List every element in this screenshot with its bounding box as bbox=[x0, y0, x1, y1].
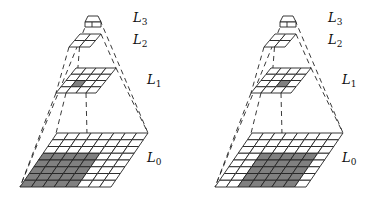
label-L3-right: L3 bbox=[327, 10, 343, 27]
grid-L2 bbox=[264, 34, 296, 47]
label-L2-left: L2 bbox=[132, 32, 147, 49]
grid-L2 bbox=[69, 34, 101, 47]
L3-top-face bbox=[280, 16, 296, 22]
projection-line bbox=[116, 68, 148, 133]
label-L0-right: L0 bbox=[341, 150, 357, 167]
grid-L3 bbox=[85, 16, 101, 27]
label-L2-right: L2 bbox=[327, 32, 342, 49]
L3-front-face bbox=[85, 22, 101, 27]
pyramid-panel-left bbox=[20, 16, 148, 187]
pyramid-panel-right bbox=[215, 16, 343, 187]
label-L0-left: L0 bbox=[146, 150, 162, 167]
grid-L1 bbox=[56, 68, 116, 93]
grid-L1 bbox=[251, 68, 311, 93]
L3-front-face bbox=[280, 22, 296, 27]
pyramid-figure: L3 L2 L1 L0 L3 L2 L1 L0 bbox=[0, 0, 386, 199]
label-L3-left: L3 bbox=[132, 10, 148, 27]
grid-L0 bbox=[215, 133, 343, 187]
label-L1-right: L1 bbox=[341, 72, 356, 89]
label-L1-left: L1 bbox=[146, 72, 161, 89]
projection-line bbox=[311, 68, 343, 133]
grid-L3 bbox=[280, 16, 296, 27]
L3-top-face bbox=[85, 16, 101, 22]
grid-L0 bbox=[20, 133, 148, 187]
